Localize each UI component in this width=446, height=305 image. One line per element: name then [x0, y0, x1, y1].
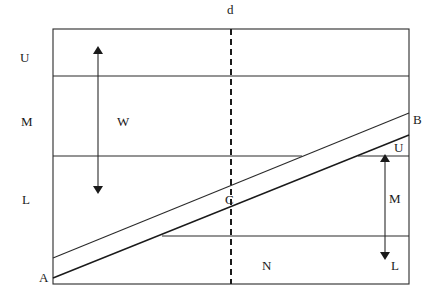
- diagram: d U M L W A B C U M L N: [0, 0, 446, 305]
- label-d: d: [227, 2, 234, 17]
- label-a: A: [39, 270, 49, 285]
- label-w: W: [117, 114, 130, 129]
- label-c: C: [225, 192, 234, 207]
- label-b: B: [413, 112, 422, 127]
- label-right-m: M: [389, 191, 401, 206]
- label-right-l: L: [391, 258, 399, 273]
- label-left-m: M: [21, 114, 33, 129]
- label-left-l: L: [22, 192, 30, 207]
- label-n: N: [262, 258, 272, 273]
- label-left-u: U: [20, 50, 30, 65]
- label-right-u: U: [394, 140, 404, 155]
